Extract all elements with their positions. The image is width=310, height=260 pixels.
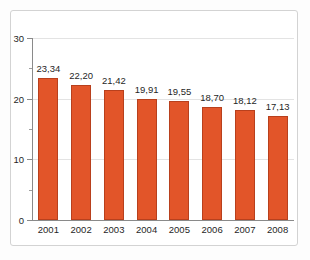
y-axis-tick-label: 10 bbox=[0, 154, 24, 165]
bar[interactable] bbox=[202, 107, 222, 220]
bar-value-label: 18,12 bbox=[233, 95, 257, 106]
y-axis-tick-label: 30 bbox=[0, 33, 24, 44]
bar-value-label: 17,13 bbox=[266, 101, 290, 112]
x-axis-tick-label: 2003 bbox=[103, 224, 124, 235]
x-axis-line bbox=[32, 220, 294, 221]
x-axis-tick-label: 2004 bbox=[136, 224, 157, 235]
y-axis-tick-label: 20 bbox=[0, 93, 24, 104]
x-axis-tick-label: 2005 bbox=[169, 224, 190, 235]
bar[interactable] bbox=[71, 85, 91, 220]
bar-chart-figure: 0102030 20012002200320042005200620072008… bbox=[0, 0, 310, 260]
plot-area bbox=[32, 38, 294, 220]
bar[interactable] bbox=[104, 90, 124, 220]
x-axis-tick-label: 2001 bbox=[38, 224, 59, 235]
bar[interactable] bbox=[235, 110, 255, 220]
x-axis-tick-label: 2002 bbox=[71, 224, 92, 235]
x-axis-tick-label: 2007 bbox=[234, 224, 255, 235]
bar[interactable] bbox=[38, 78, 58, 220]
bar[interactable] bbox=[137, 99, 157, 220]
bar-value-label: 23,34 bbox=[36, 63, 60, 74]
x-axis-tick-label: 2008 bbox=[267, 224, 288, 235]
bar[interactable] bbox=[169, 101, 189, 220]
bar-value-label: 19,91 bbox=[135, 84, 159, 95]
bar-value-label: 18,70 bbox=[200, 92, 224, 103]
bar-value-label: 21,42 bbox=[102, 75, 126, 86]
bar-value-label: 22,20 bbox=[69, 70, 93, 81]
y-axis-tick-label: 0 bbox=[0, 215, 24, 226]
bar[interactable] bbox=[268, 116, 288, 220]
bar-value-label: 19,55 bbox=[167, 86, 191, 97]
x-axis-tick-label: 2006 bbox=[202, 224, 223, 235]
